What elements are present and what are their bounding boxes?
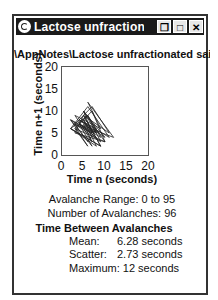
x-tick: 10	[94, 159, 114, 173]
x-axis-label: Time n (seconds)	[14, 173, 210, 185]
close-button[interactable]: ✕	[189, 20, 203, 33]
mean-value: 6.28 seconds	[117, 235, 182, 247]
window-title: Lactose unfractionate...	[34, 20, 144, 34]
mean-row: Mean:6.28 seconds	[69, 235, 182, 247]
return-map-plot	[62, 67, 148, 155]
maximize-button[interactable]: □	[173, 20, 187, 33]
section-title: Time Between Avalanches	[6, 222, 202, 234]
avalanche-range: Avalanche Range: 0 to 95	[14, 193, 210, 205]
data-series-line	[71, 102, 114, 146]
y-tick: 10	[42, 104, 58, 118]
plot-area	[61, 66, 149, 156]
x-tick: 0	[51, 159, 71, 173]
y-tick: 5	[42, 126, 58, 140]
scatter-value: 2.73 seconds	[117, 248, 182, 260]
y-tick: 20	[42, 60, 58, 74]
max-value: 12 seconds	[123, 262, 179, 274]
x-tick: 15	[116, 159, 136, 173]
scatter-label: Scatter:	[69, 248, 117, 260]
restore-button[interactable]: ❐	[157, 20, 171, 33]
y-tick: 15	[42, 82, 58, 96]
x-tick: 20	[138, 159, 158, 173]
mean-label: Mean:	[69, 235, 117, 247]
avalanche-count: Number of Avalanches: 96	[14, 207, 210, 219]
app-window: Lactose unfractionate... ❐ □ ✕ \AppNotes…	[12, 14, 208, 295]
max-label: Maximum:	[69, 262, 120, 274]
maximum-row: Maximum: 12 seconds	[69, 262, 179, 274]
title-bar[interactable]: Lactose unfractionate... ❐ □ ✕	[16, 18, 204, 35]
scatter-row: Scatter:2.73 seconds	[69, 248, 182, 260]
x-tick: 5	[72, 159, 92, 173]
app-icon[interactable]	[18, 20, 31, 33]
